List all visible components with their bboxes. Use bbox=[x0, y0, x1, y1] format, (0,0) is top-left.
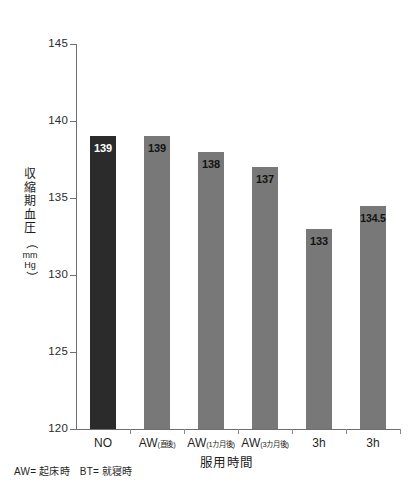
y-axis-title: 収 縮 期 血 圧 （ mm Hg ） bbox=[22, 168, 38, 283]
y-tick-label: 145 bbox=[34, 37, 68, 49]
bar-value-label: 134.5 bbox=[360, 212, 385, 224]
y-axis-unit-close-paren: ） bbox=[23, 268, 37, 284]
x-label-sub: (1カ月後) bbox=[206, 440, 234, 449]
y-tick-label-wrap: 125 bbox=[28, 352, 68, 353]
y-axis-title-char-0: 収 bbox=[22, 168, 38, 182]
x-label-main: AW bbox=[241, 436, 260, 450]
bar[interactable]: 137 bbox=[252, 167, 278, 429]
x-tick-mark bbox=[292, 429, 293, 434]
footnote-aw: AW= 起床時 bbox=[14, 466, 70, 477]
y-tick-label-wrap: 120 bbox=[28, 429, 68, 430]
bar-value-label: 138 bbox=[202, 158, 220, 170]
plot-area: 139139138137133134.5 bbox=[76, 44, 400, 429]
y-axis-title-char-2: 期 bbox=[22, 195, 38, 209]
y-tick-label: 135 bbox=[34, 191, 68, 203]
bar-value-label: 139 bbox=[148, 142, 166, 154]
y-tick-label-wrap: 145 bbox=[28, 44, 68, 45]
x-tick-mark bbox=[184, 429, 185, 434]
x-tick-mark bbox=[400, 429, 401, 434]
bar[interactable]: 134.5 bbox=[360, 206, 386, 429]
y-tick-label-wrap: 140 bbox=[28, 121, 68, 122]
footnote-bt: BT= 就寝時 bbox=[80, 466, 133, 477]
x-label-main: AW bbox=[187, 436, 206, 450]
x-axis-title-text: 服用時間 bbox=[160, 456, 254, 470]
bar[interactable]: 138 bbox=[198, 152, 224, 429]
bar[interactable]: 139 bbox=[90, 136, 116, 429]
y-tick-label: 125 bbox=[34, 345, 68, 357]
x-label-main: NO bbox=[94, 436, 112, 450]
y-tick-label: 120 bbox=[34, 422, 68, 434]
bar-value-label: 139 bbox=[94, 142, 112, 154]
x-tick-mark bbox=[238, 429, 239, 434]
x-tick-mark bbox=[130, 429, 131, 434]
x-label-sub: (直後) bbox=[158, 440, 176, 449]
footnote: AW= 起床時BT= 就寝時 bbox=[14, 463, 133, 478]
y-axis-unit-open-paren: （ bbox=[23, 235, 37, 251]
x-label-sub: (3カ月後) bbox=[260, 440, 288, 449]
x-tick-mark bbox=[346, 429, 347, 434]
bar-value-label: 137 bbox=[256, 173, 274, 185]
bar[interactable]: 139 bbox=[144, 136, 170, 429]
y-tick-label: 140 bbox=[34, 114, 68, 126]
x-label-main: 3h bbox=[312, 436, 325, 450]
y-axis-title-char-3: 血 bbox=[22, 209, 38, 223]
y-tick-label: 130 bbox=[34, 268, 68, 280]
y-axis-unit-mm: mm bbox=[22, 250, 38, 260]
x-label-main: AW bbox=[139, 436, 158, 450]
x-label-main: 3h bbox=[366, 436, 379, 450]
bar-chart: 145140135130125120 139139138137133134.5 … bbox=[0, 0, 413, 501]
bar-value-label: 133 bbox=[310, 235, 328, 247]
x-axis-category-label: 3h bbox=[340, 437, 406, 450]
y-axis-title-char-1: 縮 bbox=[22, 182, 38, 196]
bar[interactable]: 133 bbox=[306, 229, 332, 429]
